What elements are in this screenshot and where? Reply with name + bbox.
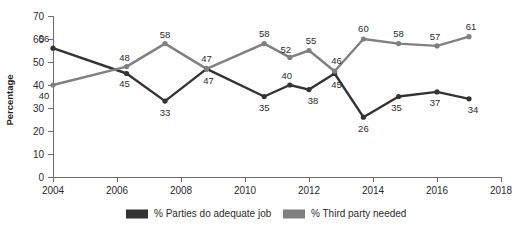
- data-point: [124, 64, 129, 69]
- x-tick-label: 2004: [42, 185, 65, 196]
- data-point-label: 26: [358, 123, 369, 134]
- data-point-label: 40: [39, 90, 50, 101]
- data-point: [162, 99, 167, 104]
- series-point-labels: 5645334735403845263537344048584758525546…: [39, 21, 479, 135]
- legend-swatch-1: [283, 210, 305, 219]
- x-tick-label: 2006: [106, 185, 129, 196]
- chart-container: 010203040506070 200420062008201020122014…: [0, 0, 514, 230]
- data-point: [262, 41, 267, 46]
- data-point-label: 58: [393, 28, 404, 39]
- data-point-label: 57: [430, 31, 441, 42]
- x-tick-label: 2010: [234, 185, 257, 196]
- y-tick-label: 40: [33, 80, 45, 91]
- data-point-label: 35: [259, 102, 270, 113]
- data-point-label: 38: [308, 95, 319, 106]
- y-axis-title: Percentage: [4, 74, 15, 125]
- data-point: [306, 87, 311, 92]
- y-tick-label: 70: [33, 11, 45, 22]
- data-point: [287, 82, 292, 87]
- data-point-label: 35: [391, 102, 402, 113]
- x-tick-label: 2018: [490, 185, 513, 196]
- data-point: [50, 46, 55, 51]
- data-point-label: 58: [259, 28, 270, 39]
- data-point-label: 58: [160, 29, 171, 40]
- legend-label-1: % Third party needed: [311, 208, 406, 219]
- data-point-label: 45: [331, 79, 342, 90]
- cropped-title-remnant: [92, 0, 392, 5]
- data-point: [306, 48, 311, 53]
- data-point-label: 40: [282, 70, 293, 81]
- series-line-1: [53, 37, 469, 85]
- data-point-label: 34: [468, 104, 479, 115]
- data-point: [396, 41, 401, 46]
- y-tick-label: 50: [33, 57, 45, 68]
- y-tick-label: 20: [33, 126, 45, 137]
- x-tick-label: 2014: [362, 185, 385, 196]
- x-tick-label: 2016: [426, 185, 449, 196]
- data-point: [434, 89, 439, 94]
- data-point: [361, 115, 366, 120]
- data-point-label: 47: [201, 53, 212, 64]
- data-point-label: 45: [119, 78, 130, 89]
- data-point-label: 47: [203, 75, 214, 86]
- data-point-label: 33: [160, 107, 171, 118]
- chart-legend: % Parties do adequate job% Third party n…: [126, 208, 406, 219]
- data-point: [262, 94, 267, 99]
- data-point: [204, 66, 209, 71]
- data-point-label: 56: [39, 33, 50, 44]
- line-chart: 010203040506070 200420062008201020122014…: [0, 0, 514, 230]
- y-tick-label: 30: [33, 103, 45, 114]
- data-point: [361, 36, 366, 41]
- data-point-label: 46: [331, 55, 342, 66]
- data-point-label: 48: [119, 52, 130, 63]
- data-point: [434, 43, 439, 48]
- x-tick-label: 2012: [298, 185, 321, 196]
- data-point-label: 52: [281, 44, 292, 55]
- x-axis-ticks: 20042006200820102012201420162018: [42, 177, 513, 196]
- data-point-label: 37: [430, 97, 441, 108]
- y-tick-label: 10: [33, 149, 45, 160]
- data-point: [287, 55, 292, 60]
- y-tick-label: 0: [38, 172, 44, 183]
- data-point: [162, 41, 167, 46]
- data-point: [332, 69, 337, 74]
- data-point: [466, 96, 471, 101]
- legend-label-0: % Parties do adequate job: [154, 208, 272, 219]
- data-point-label: 60: [358, 23, 369, 34]
- data-point: [124, 71, 129, 76]
- legend-swatch-0: [126, 210, 148, 219]
- data-point: [50, 82, 55, 87]
- x-tick-label: 2008: [170, 185, 193, 196]
- data-point-label: 61: [466, 21, 477, 32]
- data-point-label: 55: [306, 35, 317, 46]
- data-point: [396, 94, 401, 99]
- data-point: [466, 34, 471, 39]
